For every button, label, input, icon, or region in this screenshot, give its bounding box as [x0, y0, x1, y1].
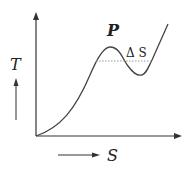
x-axis-arrow-icon — [174, 133, 182, 139]
curve — [36, 24, 168, 136]
peak-label: P — [106, 21, 120, 40]
delta-s-label: Δ S — [126, 46, 147, 60]
diagram-canvas: T S P Δ S — [0, 0, 191, 172]
t-arrow-icon — [14, 78, 19, 86]
x-axis-label: S — [107, 146, 118, 165]
y-axis-label: T — [10, 55, 22, 74]
s-arrow-icon — [92, 153, 100, 158]
y-axis-arrow-icon — [33, 12, 39, 20]
